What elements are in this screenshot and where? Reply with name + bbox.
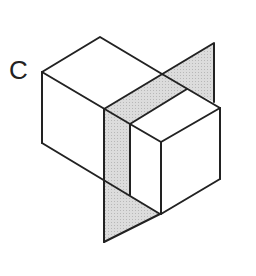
cutting-plane-top	[104, 43, 214, 124]
big-cube-top-edges	[42, 37, 162, 74]
small-cube-top-right-edge	[161, 108, 220, 142]
big-cube-bottom-edge	[42, 143, 160, 214]
big-cube-top-front-edge	[42, 72, 130, 124]
cutting-plane-bottom	[104, 180, 160, 242]
cube-plane-diagram	[0, 0, 256, 276]
small-cube-bottom-right-edge	[161, 179, 220, 214]
small-cube-top-left-edge	[130, 124, 161, 142]
